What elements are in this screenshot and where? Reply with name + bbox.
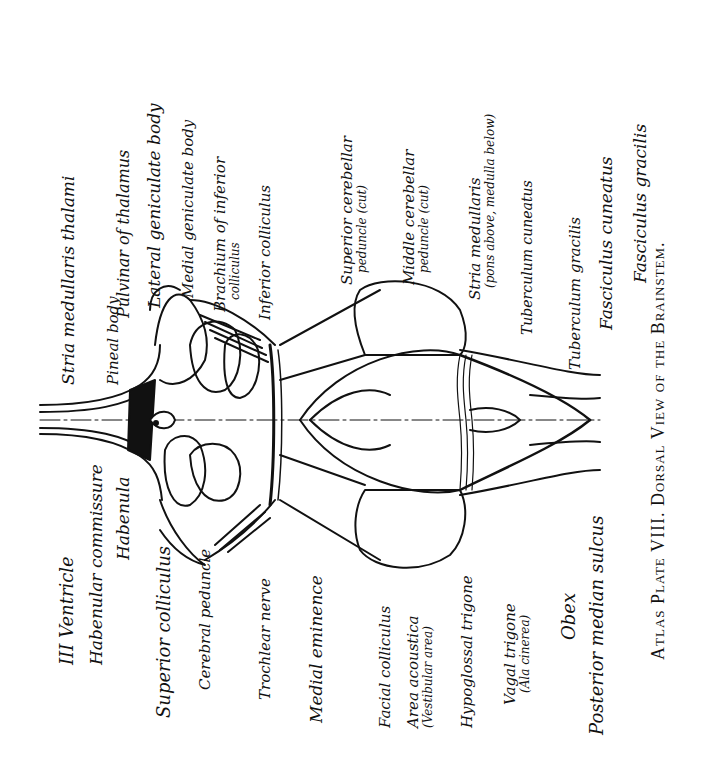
label-stria-medullaris-thalami: Stria medullaris thalami [60,176,78,385]
plate-caption: Atlas Plate VIII. Dorsal View of the Bra… [648,241,669,660]
label-area-acoustica: Area acoustica (Vestibular area) [406,616,434,729]
label-scp-line1: Superior cerebellar [338,136,356,285]
label-cerebral-peduncle: Cerebral peduncle [198,549,214,690]
label-habenular-commissure: Habenular commissure [88,464,106,665]
label-hypoglossal-trigone: Hypoglossal trigone [460,575,476,728]
label-medial-geniculate: Medial geniculate body [181,120,197,298]
label-obex: Obex [560,593,579,640]
label-vagal-trigone: Vagal trigone (Ala cinerea) [503,603,531,705]
label-inferior-colliculus: Inferior colliculus [258,185,274,320]
atlas-plate-viii: Stria medullaris thalami Pineal body Pul… [0,0,709,771]
label-trochlear-nerve: Trochlear nerve [258,578,274,700]
label-posterior-median-sulcus: Posterior median sulcus [588,516,607,735]
label-sm-line1: Stria medullaris [466,177,484,300]
label-lateral-geniculate: Lateral geniculate body [146,103,164,308]
label-aa-line1: Area acoustica [404,616,422,729]
label-mcp-line1: Middle cerebellar [400,150,418,285]
label-sm-line2: (pons above, medulla below) [484,114,497,300]
label-tuberculum-gracilis: Tuberculum gracilis [568,217,584,370]
label-scp-line2: peduncle (cut) [356,136,369,285]
label-fasciculus-cuneatus: Fasciculus cuneatus [598,156,616,330]
label-brachium-inferior-colliculus: Brachium of inferior colliculus [213,157,241,312]
label-medial-eminence: Medial eminence [308,575,326,723]
label-third-ventricle: III Ventricle [58,556,77,665]
label-stria-medullaris: Stria medullaris (pons above, medulla be… [468,114,496,300]
label-pulvinar: Pulvinar of thalamus [116,150,133,318]
label-vt-line1: Vagal trigone [501,603,519,705]
label-brachium-line2: colliculus [229,157,242,312]
label-habenula: Habenula [115,477,133,560]
label-brachium-line1: Brachium of inferior [211,157,229,312]
label-mcp-line2: peduncle (cut) [418,150,431,285]
label-superior-cerebellar-peduncle: Superior cerebellar peduncle (cut) [340,136,368,285]
label-vt-line2: (Ala cinerea) [519,603,532,705]
label-tuberculum-cuneatus: Tuberculum cuneatus [520,180,535,335]
label-aa-line2: (Vestibular area) [422,616,435,729]
label-facial-colliculus: Facial colliculus [378,606,394,728]
label-superior-colliculus: Superior colliculus [155,546,174,718]
label-middle-cerebellar-peduncle: Middle cerebellar peduncle (cut) [402,150,430,285]
